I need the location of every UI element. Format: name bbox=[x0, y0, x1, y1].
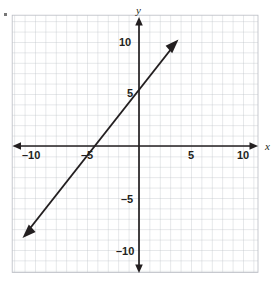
coordinate-graph: –10 –5 5 10 10 5 –5 –10 x y bbox=[0, 0, 277, 283]
x-tick-label-5: 5 bbox=[188, 150, 194, 161]
x-tick-label-neg-5: –5 bbox=[81, 150, 93, 161]
y-tick-label-10: 10 bbox=[119, 37, 131, 48]
y-axis-name: y bbox=[136, 5, 141, 16]
y-tick-label-neg-10: –10 bbox=[116, 246, 134, 257]
grid-area bbox=[12, 15, 258, 272]
graph-canvas bbox=[0, 0, 277, 283]
y-tick-label-5: 5 bbox=[127, 88, 133, 99]
y-tick-label-neg-5: –5 bbox=[121, 194, 133, 205]
x-tick-label-10: 10 bbox=[237, 150, 249, 161]
x-tick-label-neg-10: –10 bbox=[22, 150, 40, 161]
x-axis-name: x bbox=[265, 141, 270, 152]
